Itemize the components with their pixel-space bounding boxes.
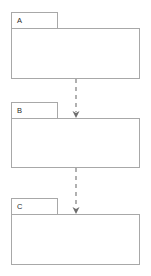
package-diagram-svg: A B C: [0, 0, 151, 276]
package-b[interactable]: B: [12, 103, 140, 168]
package-a-label: A: [17, 16, 22, 25]
package-b-label: B: [17, 106, 22, 115]
package-diagram-canvas: A B C: [0, 0, 151, 276]
package-c[interactable]: C: [12, 199, 140, 265]
package-a[interactable]: A: [12, 13, 140, 79]
dependency-a-to-b[interactable]: [73, 79, 80, 118]
dependency-b-to-c[interactable]: [73, 168, 80, 214]
dependency-arrowhead-b-to-c: [73, 207, 80, 214]
package-c-body: [12, 215, 140, 265]
package-b-body: [12, 119, 140, 168]
dependency-arrowhead-a-to-b: [73, 111, 80, 118]
package-c-label: C: [17, 202, 23, 211]
package-a-body: [12, 29, 140, 79]
